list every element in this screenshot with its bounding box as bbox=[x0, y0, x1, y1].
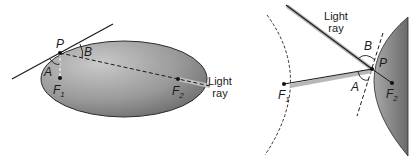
ray-label-line1: Light bbox=[324, 10, 348, 22]
focus-f1 bbox=[58, 76, 62, 80]
label-f1: F1 bbox=[278, 88, 290, 104]
hyperbola-panel: P B A F1 F2 Light ray bbox=[265, 5, 408, 156]
label-p: P bbox=[56, 37, 64, 51]
ellipse-panel: P A B F1 F2 Light ray bbox=[12, 24, 232, 117]
focus-f2 bbox=[390, 81, 394, 85]
reflection-diagram: P A B F1 F2 Light ray P B A F1 F2 bbox=[0, 0, 417, 166]
label-p: P bbox=[379, 56, 387, 70]
point-p bbox=[370, 67, 374, 71]
point-p bbox=[58, 51, 62, 55]
label-angle-b: B bbox=[364, 39, 372, 53]
ray-label-line2: ray bbox=[212, 87, 228, 99]
focus-f1 bbox=[282, 82, 286, 86]
ray-label-line2: ray bbox=[328, 22, 344, 34]
label-angle-a: A bbox=[350, 80, 359, 94]
light-ray-reflected-shadow bbox=[290, 71, 372, 86]
ray-label-line1: Light bbox=[208, 75, 232, 87]
hyperbola-branch-left bbox=[265, 15, 291, 155]
label-angle-a: A bbox=[43, 65, 52, 79]
focus-f2 bbox=[176, 77, 180, 81]
label-angle-b: B bbox=[84, 45, 92, 59]
